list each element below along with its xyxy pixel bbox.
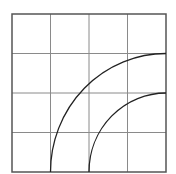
outer-arc [51,54,167,173]
grid-lines [12,14,166,172]
grid-diagram [0,0,176,174]
arcs [51,54,167,173]
